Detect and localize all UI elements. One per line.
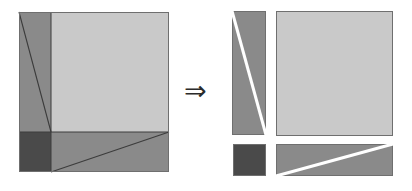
- wide-bottom-block: [276, 144, 393, 176]
- small-dark-block: [234, 145, 266, 176]
- small-dark-block-fill: [234, 145, 266, 176]
- large-light-block-fill: [277, 12, 393, 136]
- right-panel-separated-blocks: [0, 0, 412, 191]
- tall-strip-block: [232, 11, 266, 135]
- large-light-block: [277, 12, 393, 136]
- diagram-canvas: ⇒: [0, 0, 412, 191]
